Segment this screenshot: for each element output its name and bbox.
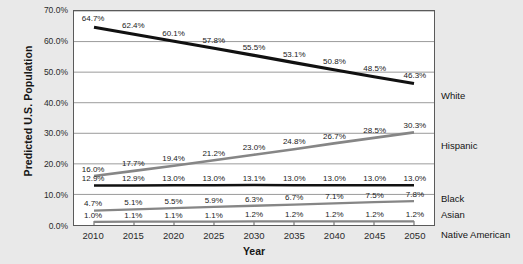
series-line-asian — [94, 201, 414, 210]
y-axis-tick-labels: 0.0%10.0%20.0%30.0%40.0%50.0%60.0%70.0% — [20, 0, 68, 264]
legend-label-black: Black — [441, 192, 464, 203]
series-line-hispanic — [94, 132, 414, 176]
y-axis-tick-label: 70.0% — [22, 5, 68, 15]
x-axis-tick-label: 2045 — [352, 230, 398, 241]
legend-label-hispanic: Hispanic — [441, 139, 477, 150]
x-axis-tick-label: 2035 — [271, 230, 317, 241]
x-axis-tick-labels: 201020152020202520302035204020452050 — [73, 230, 435, 246]
x-axis-tick-label: 2010 — [70, 230, 116, 241]
x-axis-tick-label: 2040 — [311, 230, 357, 241]
x-axis-tick-label: 2020 — [151, 230, 197, 241]
series-line-white — [94, 27, 414, 83]
legend: WhiteHispanicBlackAsianNative American — [441, 0, 523, 264]
plot-area — [73, 10, 435, 226]
series-line-native-american — [94, 221, 414, 222]
legend-label-asian: Asian — [441, 208, 465, 219]
y-axis-tick-label: 0.0% — [22, 221, 68, 231]
legend-label-white: White — [441, 90, 465, 101]
x-axis-tick-label: 2015 — [110, 230, 156, 241]
legend-label-native-american: Native American — [441, 229, 510, 240]
y-axis-tick-label: 50.0% — [22, 67, 68, 77]
series-lines — [74, 11, 434, 225]
x-axis-tick-label: 2030 — [231, 230, 277, 241]
x-axis-tick-label: 2025 — [191, 230, 237, 241]
y-axis-tick-label: 10.0% — [22, 190, 68, 200]
x-axis-title: Year — [73, 245, 435, 257]
series-line-black — [94, 185, 414, 186]
x-axis-tick-label: 2050 — [392, 230, 438, 241]
y-axis-tick-label: 20.0% — [22, 159, 68, 169]
y-axis-tick-label: 40.0% — [22, 98, 68, 108]
y-axis-tick-label: 30.0% — [22, 128, 68, 138]
y-axis-tick-label: 60.0% — [22, 36, 68, 46]
population-projection-line-chart: Predicted U.S. Population 0.0%10.0%20.0%… — [0, 0, 523, 264]
